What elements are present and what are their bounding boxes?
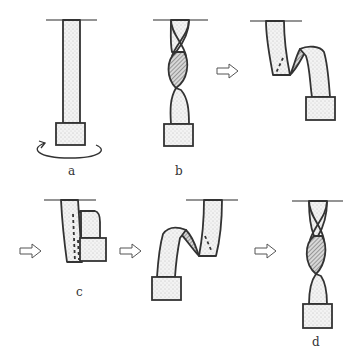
arrow-to-d <box>255 244 276 258</box>
right-arrow-icon <box>120 244 141 258</box>
right-arrow-icon <box>20 244 41 258</box>
strip-twist-hatched <box>169 52 188 88</box>
panel-b: b <box>153 20 208 178</box>
strip <box>63 20 80 123</box>
weight-box <box>152 277 181 300</box>
strip-back <box>80 211 100 238</box>
panel-fold-2 <box>152 200 238 300</box>
strip-upper <box>309 201 327 236</box>
panel-d: d <box>292 201 343 349</box>
weight-box <box>56 123 85 145</box>
panel-label-d: d <box>312 335 320 349</box>
weight-box <box>164 124 193 146</box>
weight-box <box>303 304 332 328</box>
right-arrow-icon <box>217 64 238 78</box>
twisting-strip-diagram: a b c <box>0 0 356 361</box>
arrow-to-c <box>20 244 41 258</box>
strip-lower <box>171 88 189 124</box>
strip-lower <box>309 274 327 304</box>
panel-c: c <box>44 200 106 299</box>
strip-upper <box>266 21 290 75</box>
panel-label-a: a <box>68 164 75 178</box>
strip-lower <box>157 228 186 277</box>
panel-fold-1 <box>250 21 335 120</box>
right-arrow-icon <box>255 244 276 258</box>
panel-label-b: b <box>175 164 183 178</box>
strip-upper <box>171 20 189 52</box>
strip-twist-hatched <box>307 236 326 274</box>
panel-a: a <box>37 20 101 178</box>
arrow-b-to-fold <box>217 64 238 78</box>
strip-lower <box>300 47 330 97</box>
arrow-c-to-unfold <box>120 244 141 258</box>
weight-box <box>80 238 106 261</box>
panel-label-c: c <box>76 285 83 299</box>
weight-box <box>306 97 335 120</box>
